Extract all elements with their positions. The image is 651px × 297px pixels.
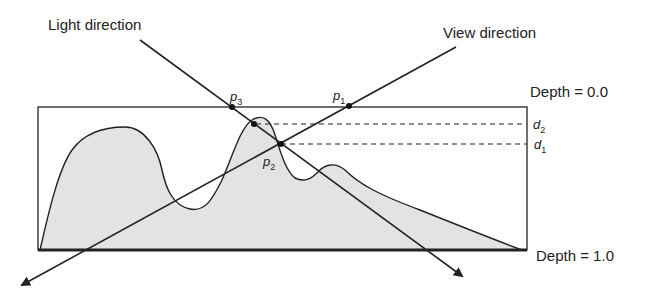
depth-bottom-label: Depth = 1.0	[536, 248, 614, 263]
p1-dot	[346, 103, 352, 109]
d2-label: d2	[533, 118, 545, 135]
p1-label: p1	[333, 89, 345, 106]
depth-top-label: Depth = 0.0	[530, 84, 608, 99]
p2-label: p2	[263, 155, 275, 172]
height-profile	[40, 117, 522, 250]
d1-label: d1	[534, 138, 546, 155]
peak-dot	[251, 121, 257, 127]
light-direction-label: Light direction	[48, 17, 141, 32]
p2-dot	[278, 141, 284, 147]
view-direction-label: View direction	[443, 25, 536, 40]
p3-label: p3	[230, 90, 242, 107]
